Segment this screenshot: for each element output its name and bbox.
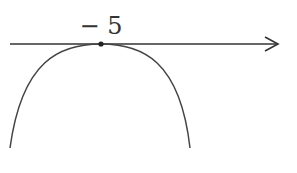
vertex-point <box>98 41 103 46</box>
vertex-label: − 5 <box>79 12 122 40</box>
parabola-curve <box>10 44 190 148</box>
parabola-diagram: − 5 <box>0 0 297 173</box>
